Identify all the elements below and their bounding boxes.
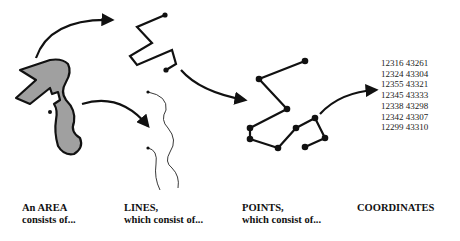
label-coordinates: COORDINATES [357, 202, 434, 214]
arrow-area-to-curve [82, 101, 148, 126]
coordinate-row: 12299 43310 [381, 122, 428, 133]
coordinate-row: 12345 43333 [381, 90, 428, 101]
coordinate-row: 12342 43307 [381, 112, 428, 123]
coordinate-row: 12316 43261 [381, 58, 428, 69]
arrow-points-to-coordinates [320, 90, 376, 114]
curvy-line [146, 90, 178, 190]
arrow-area-to-line [36, 20, 112, 58]
label-points: POINTS, which consist of... [242, 202, 321, 226]
label-lines: LINES, which consist of... [124, 202, 203, 226]
coordinate-row: 12338 43298 [381, 101, 428, 112]
label-area: An AREA consists of... [22, 202, 76, 226]
coordinate-row: 12355 43321 [381, 79, 428, 90]
coordinate-list: 12316 43261 12324 43304 12355 43321 1234… [381, 58, 428, 133]
coordinate-row: 12324 43304 [381, 69, 428, 80]
arrow-line-to-points [181, 70, 245, 100]
points-polyline [247, 58, 329, 152]
area-shape [16, 60, 81, 155]
zigzag-line [130, 12, 176, 72]
